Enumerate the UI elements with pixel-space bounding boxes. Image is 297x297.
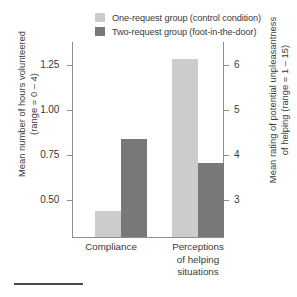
bar-chart-figure: One-request group (control condition) Tw… bbox=[0, 0, 297, 297]
right-axis-title: Mean rating of potential unpleasantness … bbox=[267, 10, 291, 190]
bar-compliance-two-request[interactable] bbox=[121, 139, 147, 238]
chart-legend: One-request group (control condition) Tw… bbox=[95, 12, 295, 40]
plot-area bbox=[72, 42, 224, 237]
legend-label-one-request: One-request group (control condition) bbox=[112, 13, 261, 23]
right-axis-title-line2: of helping (range = 1 – 15) bbox=[279, 10, 291, 190]
right-tick-label-3: 4 bbox=[234, 149, 240, 160]
x-axis-baseline bbox=[72, 237, 224, 238]
left-axis-title: Mean number of hours volunteered (range … bbox=[16, 14, 40, 194]
left-axis-title-line2: (range = 0 – 4) bbox=[28, 14, 40, 194]
legend-swatch-icon-one-request bbox=[95, 13, 105, 22]
right-tick-label-2: 5 bbox=[234, 104, 240, 115]
legend-label-two-request: Two-request group (foot-in-the-door) bbox=[112, 27, 257, 37]
left-tick-label-1: 1.25 bbox=[40, 59, 59, 70]
right-tick-label-1: 6 bbox=[234, 59, 240, 70]
left-tick-label-4: 0.50 bbox=[40, 194, 59, 205]
bar-compliance-one-request[interactable] bbox=[95, 211, 121, 237]
left-tick-label-2: 1.00 bbox=[40, 104, 59, 115]
right-tick-label-4: 3 bbox=[234, 194, 240, 205]
left-tick-label-3: 0.75 bbox=[40, 149, 59, 160]
legend-item-one-request: One-request group (control condition) bbox=[95, 12, 295, 23]
legend-item-two-request: Two-request group (foot-in-the-door) bbox=[95, 26, 295, 37]
legend-swatch-icon-two-request bbox=[95, 27, 105, 36]
right-axis-title-line1: Mean rating of potential unpleasantness bbox=[267, 10, 279, 190]
x-category-label-perceptions: Perceptions of helping situations bbox=[150, 241, 246, 279]
bar-perceptions-two-request[interactable] bbox=[198, 163, 224, 237]
x-category-label-compliance: Compliance bbox=[71, 241, 151, 254]
footer-divider bbox=[14, 283, 83, 285]
left-axis-title-line1: Mean number of hours volunteered bbox=[16, 14, 28, 194]
bar-perceptions-one-request[interactable] bbox=[172, 59, 198, 237]
